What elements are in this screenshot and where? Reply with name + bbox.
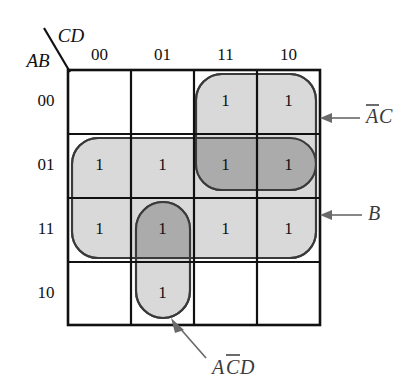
cell-01-01: 1 xyxy=(158,155,167,174)
group-b-arrowhead-icon xyxy=(320,210,332,220)
group-ac-label-a: A xyxy=(364,105,379,127)
group-acd-leader-line xyxy=(178,326,206,358)
kmap-canvas: CD AB 00 01 11 10 00 01 11 10 1 1 1 1 1 xyxy=(0,0,411,390)
cell-11-00: 1 xyxy=(95,219,104,238)
group-b-annotation: B xyxy=(320,202,380,224)
group-acd-annotation: A C D xyxy=(171,318,255,378)
row-header-00: 00 xyxy=(38,91,55,110)
col-axis-label: CD xyxy=(58,25,85,46)
group-ac-arrowhead-icon xyxy=(320,113,332,123)
col-header-10: 10 xyxy=(280,45,297,64)
cell-00-10: 1 xyxy=(284,91,293,110)
row-headers: 00 01 11 10 xyxy=(38,91,55,302)
col-header-01: 01 xyxy=(154,45,171,64)
col-header-11: 11 xyxy=(217,45,233,64)
cell-11-01: 1 xyxy=(158,219,167,238)
cell-01-10: 1 xyxy=(284,155,293,174)
group-acd-label-a: A xyxy=(210,356,225,378)
row-header-01: 01 xyxy=(38,155,55,174)
group-ac-label-c: C xyxy=(379,105,393,127)
cell-11-11: 1 xyxy=(221,219,230,238)
group-acd-label-c: C xyxy=(226,356,240,378)
cell-10-01: 1 xyxy=(158,283,167,302)
row-axis-label: AB xyxy=(24,50,50,71)
cell-00-11: 1 xyxy=(221,91,230,110)
axis-header: CD AB xyxy=(24,25,84,72)
column-headers: 00 01 11 10 xyxy=(91,45,297,64)
cell-11-10: 1 xyxy=(284,219,293,238)
group-ac-annotation: A C xyxy=(320,105,393,127)
cell-01-00: 1 xyxy=(95,155,104,174)
cell-01-11: 1 xyxy=(221,155,230,174)
row-header-11: 11 xyxy=(38,219,54,238)
karnaugh-map-diagram: CD AB 00 01 11 10 00 01 11 10 1 1 1 1 1 xyxy=(0,0,411,390)
col-header-00: 00 xyxy=(91,45,108,64)
group-acd-label-d: D xyxy=(239,356,255,378)
row-header-10: 10 xyxy=(38,283,55,302)
group-b-label: B xyxy=(368,202,380,224)
